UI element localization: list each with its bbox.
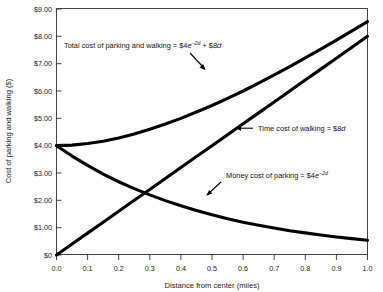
y-tick-label: $3.00	[34, 169, 52, 178]
annotation-total-cost-suffix-italic: d	[217, 41, 222, 50]
y-axis-title: Cost of parking and walking ($)	[4, 78, 13, 183]
y-tick-label: $6.00	[34, 87, 52, 96]
chart-figure: $0 $1.00 $2.00 $3.00 $4.00 $5.00 $6.00 $…	[0, 0, 383, 292]
x-tick-label: 0.3	[145, 264, 155, 273]
annotation-total-cost-suffix: + $8	[200, 41, 217, 50]
annotation-total-cost-text: Total cost of parking and walking = $4e−…	[64, 40, 222, 50]
annotation-time-cost-text: Time cost of walking = $8d	[258, 124, 346, 133]
x-tick-label: 0.5	[207, 264, 217, 273]
x-tick-label: 0.8	[300, 264, 310, 273]
annotation-time-cost-suffix-italic: d	[341, 124, 346, 133]
annotation-money-cost-exponent: −2d	[319, 170, 329, 176]
x-tick-label: 1.0	[363, 264, 373, 273]
annotation-time-cost-prefix: Time cost of walking = $8	[258, 124, 341, 133]
series-line-money-cost	[57, 146, 368, 241]
series-line-time-cost	[57, 36, 368, 255]
x-tick-label: 0.1	[83, 264, 93, 273]
y-tick-label: $8.00	[34, 32, 52, 41]
y-tick-label: $4.00	[34, 141, 52, 150]
y-tick-label: $9.00	[34, 5, 52, 14]
annotation-money-cost: Money cost of parking = $4e−2d	[206, 170, 329, 195]
x-axis-title: Distance from center (miles)	[165, 281, 260, 290]
annotation-time-cost: Time cost of walking = $8d	[235, 124, 346, 133]
chart-svg: $0 $1.00 $2.00 $3.00 $4.00 $5.00 $6.00 $…	[0, 0, 383, 292]
x-tick-label: 0.7	[269, 264, 279, 273]
annotation-total-cost-prefix: Total cost of parking and walking = $4	[64, 41, 187, 50]
y-tick-label: $2.00	[34, 196, 52, 205]
x-tick-label: 0.0	[52, 264, 62, 273]
x-tick-label: 0.2	[114, 264, 124, 273]
x-tick-label: 0.4	[176, 264, 186, 273]
x-tick-label: 0.6	[238, 264, 248, 273]
annotation-total-cost: Total cost of parking and walking = $4e−…	[64, 40, 222, 70]
y-tick-label: $7.00	[34, 59, 52, 68]
x-axis-ticks	[57, 255, 368, 260]
y-axis-tick-labels: $0 $1.00 $2.00 $3.00 $4.00 $5.00 $6.00 $…	[34, 5, 52, 260]
x-tick-label: 0.9	[331, 264, 341, 273]
y-axis-ticks	[57, 9, 62, 255]
annotation-money-cost-prefix: Money cost of parking = $4	[226, 171, 315, 180]
y-tick-label: $5.00	[34, 114, 52, 123]
y-tick-label: $0	[44, 251, 52, 260]
x-axis-tick-labels: 0.0 0.1 0.2 0.3 0.4 0.5 0.6 0.7 0.8 0.9 …	[52, 264, 373, 273]
annotation-money-cost-text: Money cost of parking = $4e−2d	[226, 170, 329, 180]
y-tick-label: $1.00	[34, 223, 52, 232]
